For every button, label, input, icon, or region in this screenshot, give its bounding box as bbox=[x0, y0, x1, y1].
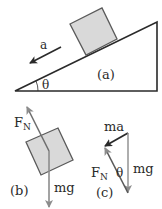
panel-a-label: (a) bbox=[97, 67, 115, 82]
normal-force-label-c: FN bbox=[91, 165, 108, 182]
ma-label: ma bbox=[104, 119, 124, 134]
weight-label: mg bbox=[54, 180, 75, 195]
angle-label-theta-c: θ bbox=[116, 166, 123, 180]
normal-force-label: FN bbox=[14, 115, 31, 132]
panel-b-label: (b) bbox=[10, 183, 28, 198]
panel-a: a θ (a) bbox=[15, 8, 157, 92]
panel-b: FN mg (b) bbox=[10, 107, 75, 207]
weight-label-c: mg bbox=[133, 161, 154, 176]
physics-diagram: a θ (a) FN mg (b) ma FN θ mg (c) bbox=[0, 0, 162, 209]
angle-label-theta: θ bbox=[42, 78, 49, 92]
panel-c-label: (c) bbox=[96, 185, 113, 200]
acceleration-label: a bbox=[40, 38, 47, 52]
panel-c: ma FN θ mg (c) bbox=[91, 119, 154, 200]
ma-arrow bbox=[105, 133, 128, 146]
